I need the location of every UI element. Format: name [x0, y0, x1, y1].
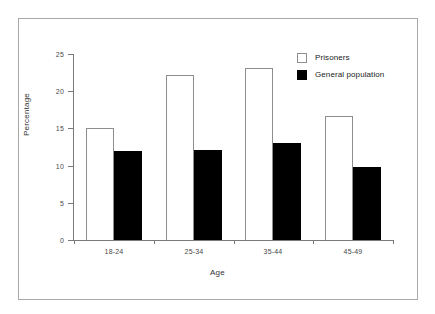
x-tick-mark — [154, 240, 155, 244]
bar-general-population-18-24 — [114, 151, 142, 240]
x-tick-label: 18-24 — [105, 248, 124, 255]
bar-general-population-35-44 — [273, 143, 301, 240]
chart-legend: Prisoners General population — [297, 50, 384, 84]
y-tick-label: 20 — [48, 88, 66, 95]
y-tick-mark — [68, 54, 73, 55]
x-tick-label: 35-44 — [264, 248, 283, 255]
chart-figure: 0510152025 18-2425-3435-4445-49 Percenta… — [0, 0, 435, 314]
x-axis-line — [73, 240, 393, 241]
y-tick-mark — [68, 203, 73, 204]
y-tick-mark — [68, 91, 73, 92]
y-tick-mark — [68, 240, 73, 241]
x-tick-label: 25-34 — [185, 248, 204, 255]
y-tick-mark — [68, 128, 73, 129]
x-tick-mark — [234, 240, 235, 244]
x-tick-mark — [313, 240, 314, 244]
y-tick-label: 10 — [48, 162, 66, 169]
legend-swatch-filled-icon — [297, 70, 307, 80]
bar-general-population-25-34 — [194, 150, 222, 240]
x-axis-label: Age — [0, 268, 435, 277]
y-axis-label: Percentage — [22, 75, 31, 155]
y-tick-label: 15 — [48, 125, 66, 132]
x-tick-label: 45-49 — [344, 248, 363, 255]
legend-label-general-population: General population — [315, 70, 384, 79]
legend-item-prisoners: Prisoners — [297, 50, 384, 65]
bar-general-population-45-49 — [353, 167, 381, 240]
y-tick-mark — [68, 166, 73, 167]
bar-prisoners-35-44 — [245, 68, 273, 240]
legend-label-prisoners: Prisoners — [315, 53, 350, 62]
x-tick-mark — [74, 240, 75, 244]
y-tick-label: 0 — [48, 237, 66, 244]
legend-swatch-open-icon — [297, 53, 307, 63]
bar-prisoners-25-34 — [166, 75, 194, 240]
bar-prisoners-45-49 — [325, 116, 353, 240]
bar-prisoners-18-24 — [86, 128, 114, 240]
legend-item-general-population: General population — [297, 67, 384, 82]
y-tick-label: 25 — [48, 51, 66, 58]
x-tick-mark — [393, 240, 394, 244]
y-axis-line — [73, 54, 74, 241]
y-tick-label: 5 — [48, 199, 66, 206]
